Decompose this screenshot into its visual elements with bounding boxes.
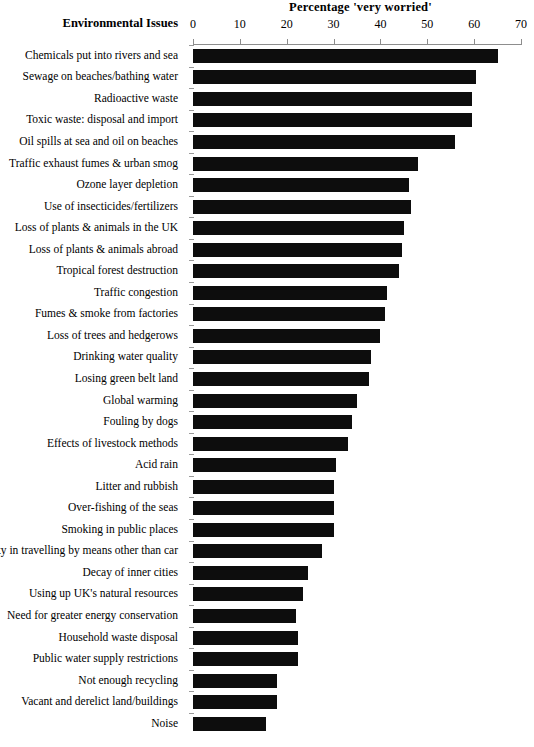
category-label: Sewage on beaches/bathing water [22,72,178,84]
bar-row: Litter and rubbish [0,476,534,498]
bar [193,609,296,623]
category-tick-mark [189,541,194,542]
bar [193,501,334,515]
category-tick-mark [189,390,194,391]
category-tick-mark [189,476,194,477]
category-tick-mark [189,605,194,606]
category-label: Acid rain [135,459,178,471]
bar-row: Losing green belt land [0,368,534,390]
bar-row: Household waste disposal [0,627,534,649]
bar-row: Loss of trees and hedgerows [0,325,534,347]
category-label: Losing green belt land [75,373,178,385]
bar [193,286,387,300]
bar-row: Loss of plants & animals in the UK [0,217,534,239]
category-label: Radioactive waste [94,93,178,105]
category-label: Ozone layer depletion [76,179,178,191]
bar-row: Ozone layer depletion [0,174,534,196]
category-label: Over-fishing of the seas [68,503,178,515]
category-tick-mark [189,648,194,649]
bar [193,587,303,601]
category-tick-mark [189,282,194,283]
category-tick-mark [189,174,194,175]
category-tick-mark [189,497,194,498]
bar-row: Decay of inner cities [0,562,534,584]
bar [193,674,277,688]
category-tick-mark [189,325,194,326]
category-tick-mark [189,67,194,68]
bar [193,695,277,709]
category-label: Chemicals put into rivers and sea [25,50,178,62]
plot-area: Chemicals put into rivers and seaSewage … [0,45,534,747]
category-label: Drinking water quality [73,352,178,364]
bar-row: Tropical forest destruction [0,260,534,282]
category-label: Traffic exhaust fumes & urban smog [9,158,178,170]
bar [193,200,411,214]
category-tick-mark [189,670,194,671]
category-label: Oil spills at sea and oil on beaches [19,136,178,148]
bar-row: Over-fishing of the seas [0,497,534,519]
bar [193,437,348,451]
bar [193,243,402,257]
bar-row: Vacant and derelict land/buildings [0,691,534,713]
category-tick-mark [189,562,194,563]
category-label: Fouling by dogs [103,416,178,428]
category-tick-mark [189,584,194,585]
bar [193,157,418,171]
x-tick-label: 10 [234,17,246,32]
bar-row: Drinking water quality [0,347,534,369]
category-tick-mark [189,454,194,455]
category-label: Traffic congestion [94,287,178,299]
category-tick-mark [189,519,194,520]
bar [193,92,472,106]
category-label: Smoking in public places [61,524,178,536]
x-tick-label: 30 [328,17,340,32]
bar-row: Loss of plants & animals abroad [0,239,534,261]
bar-row: Fouling by dogs [0,411,534,433]
category-label: Decay of inner cities [83,567,178,579]
category-tick-mark [189,304,194,305]
category-label: Using up UK's natural resources [29,589,178,601]
bar [193,523,334,537]
category-label: Household waste disposal [59,632,178,644]
bar-row: Use of insecticides/fertilizers [0,196,534,218]
bar-row: Difficulty in travelling by means other … [0,541,534,563]
category-label: Difficulty in travelling by means other … [0,546,178,558]
bar-row: Noise [0,713,534,735]
category-label: Need for greater energy conservation [7,610,178,622]
bar-row: Acid rain [0,454,534,476]
category-tick-mark [189,433,194,434]
category-tick-mark [189,260,194,261]
bar [193,113,472,127]
bar [193,480,334,494]
bar-row: Not enough recycling [0,670,534,692]
bar-row: Radioactive waste [0,88,534,110]
category-tick-mark [189,411,194,412]
bar [193,544,322,558]
bar-row: Global warming [0,390,534,412]
x-tick-label: 60 [468,17,480,32]
bar [193,350,371,364]
bar [193,178,409,192]
category-tick-mark [189,217,194,218]
category-tick-mark [189,131,194,132]
bar-row: Effects of livestock methods [0,433,534,455]
category-label: Tropical forest destruction [56,265,178,277]
category-label: Not enough recycling [78,675,178,687]
bar-row: Public water supply restrictions [0,648,534,670]
category-label: Effects of livestock methods [47,438,178,450]
chart-title: Percentage 'very worried' [193,0,528,15]
category-label: Use of insecticides/fertilizers [44,201,178,213]
bar [193,329,380,343]
bar-row: Fumes & smoke from factories [0,304,534,326]
category-axis-title: Environmental Issues [0,16,178,31]
category-tick-mark [189,239,194,240]
category-tick-mark [189,153,194,154]
bar [193,135,455,149]
category-tick-mark [189,713,194,714]
bar-row: Using up UK's natural resources [0,584,534,606]
category-label: Loss of plants & animals in the UK [15,222,178,234]
bar-chart: Percentage 'very worried' Environmental … [0,0,534,747]
bar [193,631,298,645]
category-tick-mark [189,627,194,628]
bar-row: Chemicals put into rivers and sea [0,45,534,67]
